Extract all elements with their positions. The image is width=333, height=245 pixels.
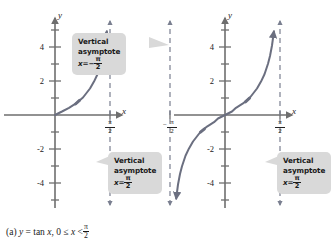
callout-b-left-equation: x=−π2 [78, 56, 120, 71]
caption-a-equals: = [26, 227, 31, 237]
y-tick-label-4-b: 4 [200, 42, 214, 52]
x-tick-pi-denominator-neg-b: 2 [167, 128, 177, 136]
caption-a-fraction: π2 [83, 223, 89, 241]
caption-a-func: tan [33, 227, 45, 237]
tangent-graphs-figure: x y 4 2 -2 -4 π 2 Vertical asymptote x=π… [0, 0, 333, 245]
x-tick-pi-denominator-b: 2 [275, 128, 285, 136]
x-axis-label-a: x [122, 106, 126, 116]
callout-b-right-equation: x=π2 [283, 175, 325, 190]
callout-a-eq-den: 2 [124, 183, 131, 190]
panel-b: x y 4 2 -2 -4 − π 2 π 2 Vertical asympto… [167, 0, 333, 245]
caption-a-comma: , [51, 227, 53, 237]
y-axis-label-b: y [228, 10, 232, 20]
x-tick-label-pi-over-2-a: π 2 [105, 119, 115, 135]
y-tick-label-4-a: 4 [30, 42, 44, 52]
callout-b-left-eq-den: 2 [94, 64, 101, 71]
x-axis-label-b: x [292, 106, 296, 116]
x-tick-label-pi-over-2-b: π 2 [275, 119, 285, 135]
callout-a-line1: Vertical [114, 156, 156, 166]
callout-b-left-line1: Vertical [78, 37, 120, 47]
callout-a-eq-fraction: π2 [124, 175, 131, 190]
callout-b-left-eq-fraction: π2 [94, 56, 101, 71]
y-tick-label-2-a: 2 [30, 76, 44, 86]
caption-a-y: y [19, 227, 23, 237]
curve-direction-marker-a [76, 100, 80, 104]
callout-a-equation: x=π2 [114, 175, 156, 190]
callout-b-left-vertical-asymptote[interactable]: Vertical asymptote x=−π2 [72, 33, 126, 75]
caption-a-domain-var: x [71, 227, 75, 237]
caption-a-domain-left: 0 ≤ [56, 227, 68, 237]
y-tick-label-neg2-a: -2 [26, 144, 44, 154]
curve-direction-marker-b-upper [246, 98, 250, 102]
y-tick-label-neg4-b: -4 [196, 178, 214, 188]
callout-b-right-line1: Vertical [283, 156, 325, 166]
callout-b-left-tail [149, 36, 169, 50]
callout-a-line2: asymptote [114, 166, 156, 176]
caption-a: (a) y = tan x, 0 ≤ x <π2 [6, 223, 89, 241]
curve-direction-marker-b-lower [201, 129, 205, 132]
y-tick-label-neg4-a: -4 [26, 178, 44, 188]
caption-a-frac-den: 2 [83, 232, 89, 241]
y-tick-label-neg2-b: -2 [196, 144, 214, 154]
y-tick-label-2-b: 2 [200, 76, 214, 86]
x-tick-label-neg-pi-over-2-b: − π 2 [167, 119, 177, 135]
caption-a-tag: (a) [6, 227, 17, 237]
x-tick-minus-sign-b: − [163, 122, 167, 129]
callout-b-right-eq-fraction: π2 [293, 175, 300, 190]
callout-b-right-line2: asymptote [283, 166, 325, 176]
y-axis-label-a: y [58, 10, 62, 20]
callout-a-vertical-asymptote[interactable]: Vertical asymptote x=π2 [108, 152, 162, 194]
callout-b-right-eq-den: 2 [293, 183, 300, 190]
callout-b-right-vertical-asymptote[interactable]: Vertical asymptote x=π2 [277, 152, 331, 194]
x-tick-pi-denominator-a: 2 [105, 128, 115, 136]
